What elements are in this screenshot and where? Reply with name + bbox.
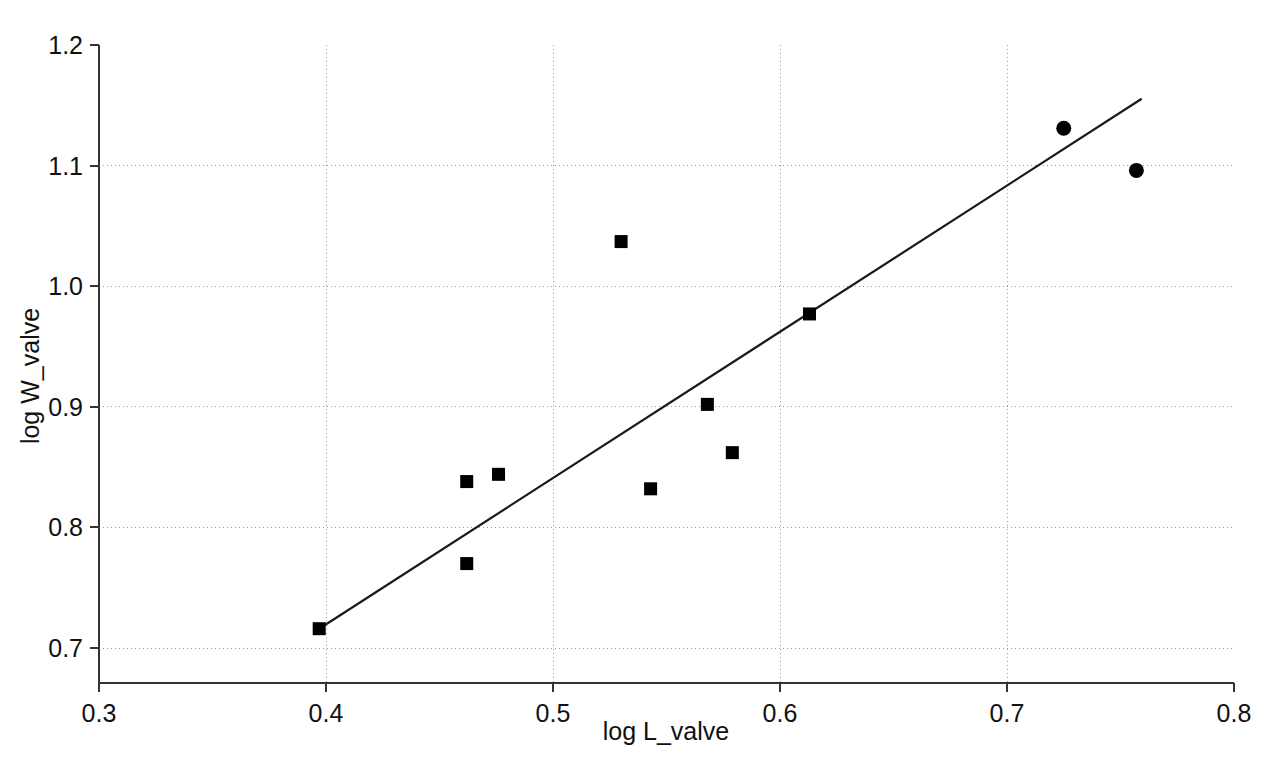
data-points [313,121,1144,635]
y-axis-tick-label: 0.8 [18,513,83,542]
axis-lines [99,45,1234,683]
x-axis-tick-label: 0.6 [763,699,798,728]
data-point-square [701,398,714,411]
y-axis-tick-label: 0.7 [18,634,83,663]
y-axis-title: log W_valve [16,308,45,444]
data-point-square [644,482,657,495]
gridlines [99,45,1234,683]
data-point-circle [1129,163,1144,178]
data-point-square [460,475,473,488]
data-point-square [313,622,326,635]
x-axis-tick-label: 0.8 [1217,699,1252,728]
axis-tickmarks [90,45,1234,692]
y-axis-tick-label: 1.2 [18,31,83,60]
plot-canvas [0,0,1272,761]
data-point-square [726,446,739,459]
trend-line [319,99,1141,628]
x-axis-title: log L_valve [603,717,729,746]
data-point-circle [1056,121,1071,136]
data-point-square [492,468,505,481]
y-axis-tick-label: 1.1 [18,151,83,180]
x-axis-tick-label: 0.7 [990,699,1025,728]
x-axis-tick-label: 0.4 [309,699,344,728]
regression-line [319,99,1141,628]
data-point-square [460,557,473,570]
x-axis-tick-label: 0.3 [82,699,117,728]
scatter-chart: 0.70.80.91.01.11.2 0.30.40.50.60.70.8 lo… [0,0,1272,761]
y-axis-tick-label: 1.0 [18,272,83,301]
data-point-square [615,235,628,248]
x-axis-tick-label: 0.5 [536,699,571,728]
data-point-square [803,307,816,320]
